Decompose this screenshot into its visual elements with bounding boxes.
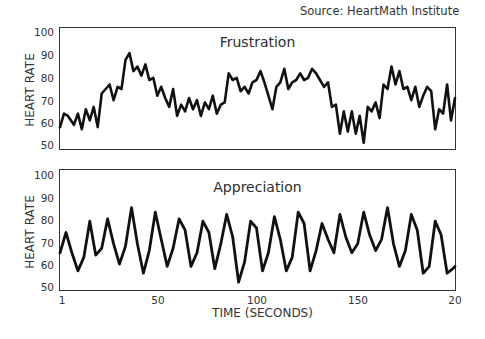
appreciation-line [60,208,455,283]
chart-lines [0,0,485,339]
frustration-line [60,53,455,143]
